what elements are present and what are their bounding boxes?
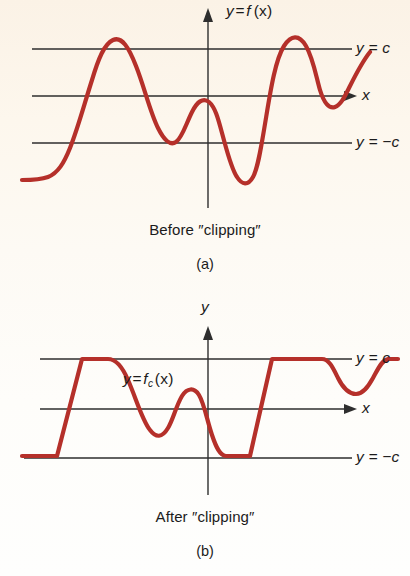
curve-label-lhs: y [226, 2, 234, 19]
label-y-equals-minus-c: y = −c [356, 133, 399, 151]
label-axis-x: x [362, 86, 370, 104]
label-y-equals-c: y = c [356, 39, 390, 57]
curve-label-subscript: c [148, 378, 154, 389]
curve-label-f-of-x: y=f(x) [226, 2, 272, 20]
plot-before-clipping [0, 0, 410, 290]
curve-label-argument: (x) [251, 2, 273, 19]
curve-f-of-x [22, 37, 370, 183]
caption-panel-b: After ″clipping″ [0, 508, 410, 525]
curve-label-argument: (x) [154, 370, 174, 387]
subcaption-panel-b: (b) [0, 543, 410, 559]
label-y-equals-minus-c: y = −c [356, 448, 399, 466]
curve-label-operator: = [234, 2, 246, 19]
y-axis-arrowhead [203, 326, 213, 340]
curve-label-fc-of-x: y=fc(x) [123, 370, 174, 389]
panel-before-clipping: y=f(x) y = c x y = −c Before ″clipping″ … [0, 0, 410, 290]
curve-label-lhs: y [123, 370, 131, 387]
curve-label-operator: = [131, 370, 143, 387]
subcaption-panel-a: (a) [0, 256, 410, 272]
clipping-figure: y=f(x) y = c x y = −c Before ″clipping″ … [0, 0, 410, 576]
label-y-equals-c: y = c [356, 349, 390, 367]
x-axis-arrowhead [344, 404, 357, 414]
plot-after-clipping [0, 290, 410, 576]
caption-panel-a: Before ″clipping″ [0, 221, 410, 238]
y-axis-arrowhead [203, 8, 213, 22]
panel-after-clipping: y=fc(x) y y = c x y = −c After ″clipping… [0, 290, 410, 576]
curve-fc-of-x [22, 359, 398, 456]
label-axis-x: x [362, 399, 370, 417]
label-axis-y: y [201, 298, 209, 316]
